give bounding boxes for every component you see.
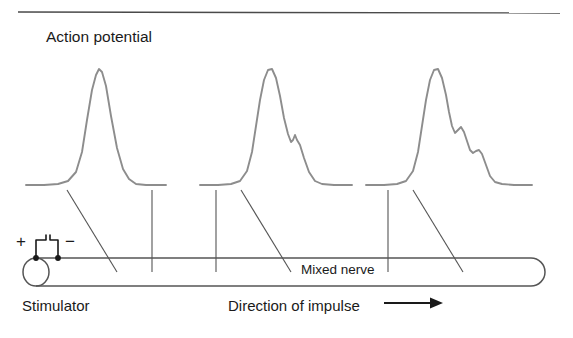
waveform-trace-3 <box>366 69 532 185</box>
mixed-nerve-label: Mixed nerve <box>301 262 375 277</box>
nerve-cross-section-ellipse <box>23 258 49 286</box>
direction-arrow-icon <box>384 298 443 309</box>
lead-1-diagonal <box>67 190 117 272</box>
waveform-trace-2 <box>200 69 352 185</box>
waveform-trace-1 <box>26 69 166 185</box>
stimulator-electrode-cathode <box>55 255 61 261</box>
stimulator-polarity-negative: − <box>65 232 75 251</box>
stimulator-assembly: + − <box>16 232 75 261</box>
stimulus-pulse-icon <box>36 235 58 258</box>
direction-of-impulse-label: Direction of impulse <box>228 297 360 314</box>
lead-3-diagonal <box>413 190 463 272</box>
lead-2-diagonal <box>241 190 291 272</box>
electrode-leads <box>67 190 463 272</box>
stimulator-label: Stimulator <box>22 297 90 314</box>
mixed-nerve-cylinder <box>23 258 545 286</box>
stimulator-polarity-positive: + <box>16 232 26 251</box>
top-rule <box>18 12 560 13</box>
page-title: Action potential <box>46 28 152 46</box>
nerve-conduction-diagram: + − <box>0 0 573 338</box>
stimulator-electrode-anode <box>33 255 39 261</box>
